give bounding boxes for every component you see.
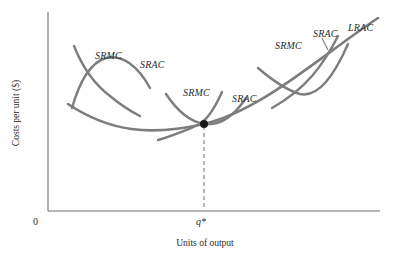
cost-curves-figure: SRMC SRAC SRMC SRAC SRMC SRAC LRAC 0 q* … xyxy=(0,0,404,264)
curve-label-lrac: LRAC xyxy=(348,22,373,33)
curve-label-srmc-right: SRMC xyxy=(275,40,302,51)
curve-label-srac-left: SRAC xyxy=(140,59,165,70)
curve-label-srmc-mid: SRMC xyxy=(183,87,210,98)
curve-label-srac-mid: SRAC xyxy=(232,93,257,104)
curve-label-srac-right: SRAC xyxy=(313,28,338,39)
y-axis-title: Costs per unit ($) xyxy=(11,63,21,163)
srac-right-leader-line xyxy=(322,38,328,50)
x-axis-title: Units of output xyxy=(140,238,270,248)
tangency-point-dot xyxy=(200,120,208,128)
curve-label-srmc-left: SRMC xyxy=(95,50,122,61)
x-axis-tick-label-qstar: q* xyxy=(196,216,206,227)
curve-srmc-mid xyxy=(158,92,222,140)
origin-label: 0 xyxy=(33,216,38,227)
